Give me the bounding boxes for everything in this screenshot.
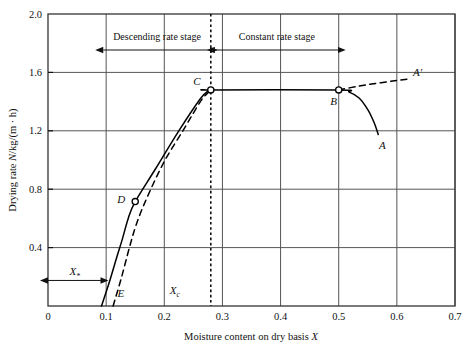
point-label-B: B [330,95,337,107]
y-tick-label: 1.2 [29,125,42,136]
marker-point-B [336,87,342,93]
marker-point-D [132,199,138,205]
stage-label-constant-rate-stage: Constant rate stage [239,31,316,42]
x-tick-label: 0.5 [332,311,345,322]
chart-background [0,0,469,356]
x-tick-label: 0.2 [158,311,171,322]
x-axis-title: Moisture content on dry basis X [184,331,318,342]
point-label-D: D [116,193,125,205]
point-label-E: E [117,287,125,299]
x-tick-label: 0.7 [448,311,461,322]
figure-container: AA′BCDE 00.10.20.30.40.50.60.7 0.40.81.2… [0,0,469,356]
y-tick-label: 2.0 [29,9,42,20]
stage-label-descending-rate-stage: Descending rate stage [113,31,201,42]
y-tick-label: 0.8 [29,184,42,195]
x-tick-label: 0.1 [100,311,113,322]
y-tick-label: 1.6 [29,67,42,78]
point-label-A: A [378,139,386,151]
x-tick-label: 0.3 [216,311,229,322]
point-label-Ap: A′ [412,66,423,78]
y-tick-label: 0.4 [29,242,43,253]
x-tick-label: 0.4 [274,311,288,322]
x-tick-label: 0 [45,311,50,322]
drying-rate-chart: AA′BCDE 00.10.20.30.40.50.60.7 0.40.81.2… [0,0,469,356]
marker-point-C [208,87,214,93]
x-tick-label: 0.6 [390,311,403,322]
y-axis-title: Drying rate N/kg/(m · h) [7,108,19,212]
point-label-C: C [193,75,201,87]
